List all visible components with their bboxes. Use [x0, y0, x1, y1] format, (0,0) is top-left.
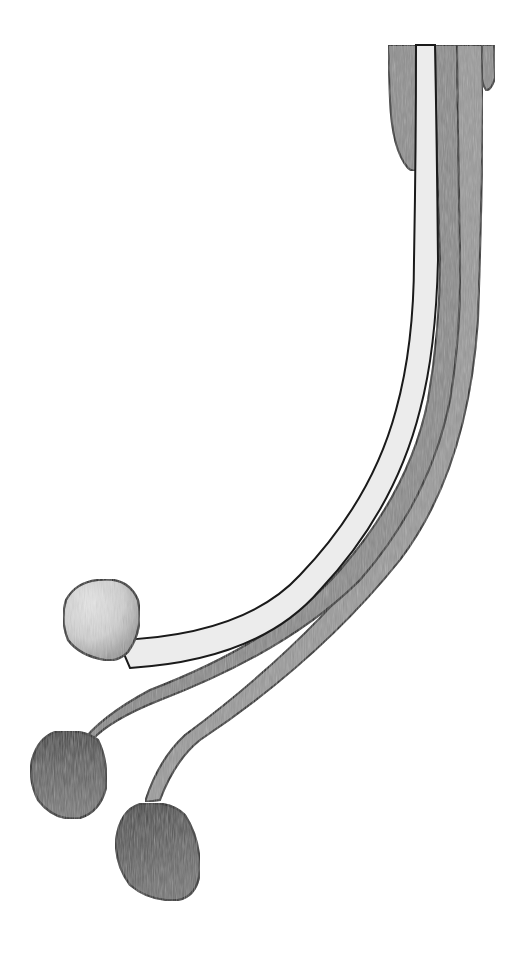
pale-cap [63, 579, 139, 660]
drawing-canvas [0, 0, 529, 954]
mushroom-drawing [0, 0, 529, 954]
bottom-cap [116, 803, 200, 900]
pale-stalk [118, 45, 438, 668]
top-cluster-left [388, 45, 416, 171]
middle-cap [31, 731, 106, 819]
